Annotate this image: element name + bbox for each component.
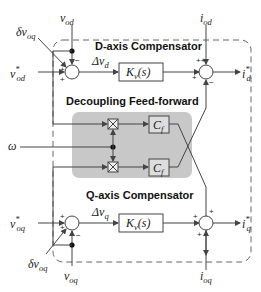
d-error-label: Δvd	[91, 54, 109, 70]
control-block-diagram: D-axis Compensator Decoupling Feed-forwa…	[0, 0, 261, 292]
d-cross-input-label: δvoq	[16, 25, 36, 41]
svg-text:+: +	[193, 212, 198, 221]
svg-text:+: +	[60, 65, 65, 74]
q-current-ff-label: ioq	[200, 269, 213, 285]
svg-text:+: +	[60, 223, 65, 232]
d-feedback-label: vod	[60, 11, 75, 27]
q-axis-title: Q-axis Compensator	[86, 189, 194, 201]
feedforward-title: Decoupling Feed-forward	[66, 95, 199, 107]
svg-text:++: ++	[196, 56, 206, 65]
feedforward-region	[72, 112, 192, 178]
svg-text:−: −	[209, 78, 214, 87]
svg-text:−: −	[76, 231, 81, 240]
d-sum-junction-1	[65, 65, 79, 79]
d-current-ff-label: iod	[200, 11, 213, 27]
d-sum-junction-2	[199, 65, 213, 79]
q-error-label: Δvq	[91, 205, 109, 221]
q-sum-junction-1	[65, 216, 79, 230]
omega-label: ω	[8, 139, 16, 153]
d-ref-input-label: v*od	[10, 64, 26, 83]
d-axis-title: D-axis Compensator	[95, 40, 203, 52]
svg-text:+: +	[197, 230, 202, 239]
svg-text:−: −	[75, 56, 80, 65]
svg-text:Kv(s): Kv(s)	[125, 65, 150, 81]
q-cross-input-label: δvoq	[28, 257, 48, 273]
svg-text:Kv(s): Kv(s)	[125, 216, 150, 232]
q-ref-input-label: v*oq	[10, 214, 26, 233]
svg-text:+: +	[60, 75, 65, 84]
svg-text:+: +	[60, 212, 65, 221]
q-sum-junction-2	[199, 216, 213, 230]
svg-text:+: +	[209, 207, 214, 216]
svg-text:+: +	[192, 73, 197, 82]
d-output-label: i*d	[242, 64, 252, 83]
q-output-label: i*q	[242, 214, 252, 233]
q-feedback-label: voq	[64, 269, 79, 285]
